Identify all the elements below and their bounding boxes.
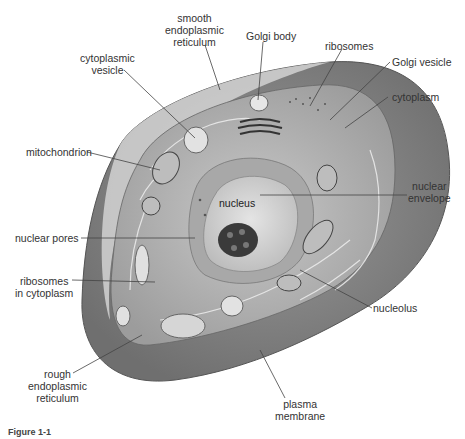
label-cytoplasmic-vesicle: cytoplasmic vesicle	[80, 52, 135, 76]
label-ribosomes: ribosomes	[325, 40, 373, 52]
label-rough-er: rough endoplasmic reticulum	[28, 368, 87, 404]
nucleolus-shape	[218, 223, 258, 257]
label-nuclear-envelope: nuclear envelope	[408, 180, 451, 204]
label-cytoplasm: cytoplasm	[392, 91, 439, 103]
label-nucleus: nucleus	[219, 197, 255, 209]
figure-caption: Figure 1-1	[8, 427, 51, 437]
label-plasma-membrane: plasma membrane	[275, 398, 325, 422]
label-golgi-vesicle: Golgi vesicle	[392, 56, 452, 68]
cell-diagram: smooth endoplasmic reticulum Golgi body …	[0, 0, 465, 439]
label-smooth-er: smooth endoplasmic reticulum	[165, 12, 224, 48]
label-golgi-body: Golgi body	[246, 30, 296, 42]
label-mitochondrion: mitochondrion	[26, 146, 92, 158]
label-nuclear-pores: nuclear pores	[15, 232, 79, 244]
label-ribosomes-in-cytoplasm: ribosomes in cytoplasm	[15, 275, 73, 299]
label-nucleolus: nucleolus	[373, 302, 417, 314]
